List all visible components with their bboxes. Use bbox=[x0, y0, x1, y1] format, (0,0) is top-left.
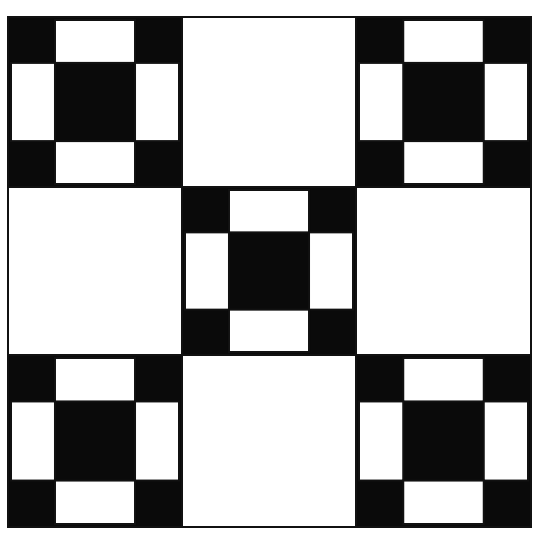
light-patch bbox=[403, 20, 484, 63]
light-patch bbox=[135, 401, 179, 480]
plain-block bbox=[182, 355, 356, 527]
light-patch bbox=[359, 63, 403, 141]
light-patch bbox=[11, 401, 55, 480]
light-patch bbox=[55, 141, 135, 184]
light-patch bbox=[185, 232, 229, 309]
light-patch bbox=[359, 401, 403, 480]
light-patch bbox=[484, 401, 528, 480]
light-patch bbox=[309, 232, 353, 309]
light-patch bbox=[403, 141, 484, 184]
plain-block bbox=[182, 17, 356, 187]
plain-block bbox=[8, 187, 182, 355]
light-patch bbox=[403, 358, 484, 401]
light-patch bbox=[11, 63, 55, 141]
light-patch bbox=[55, 20, 135, 63]
light-patch bbox=[135, 63, 179, 141]
light-patch bbox=[229, 190, 309, 232]
quilt-diagram bbox=[0, 0, 534, 539]
light-patch bbox=[55, 358, 135, 401]
light-patch bbox=[484, 63, 528, 141]
light-patch bbox=[229, 310, 309, 352]
light-patch bbox=[55, 481, 135, 524]
light-patch bbox=[403, 481, 484, 524]
plain-block bbox=[356, 187, 531, 355]
